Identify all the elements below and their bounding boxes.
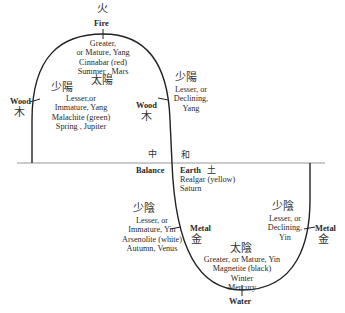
text-line: Spring , Jupiter bbox=[40, 122, 122, 131]
text-line: Yang bbox=[168, 104, 214, 113]
metal-left-cjk: 金 bbox=[191, 234, 202, 246]
text-line: Saturn bbox=[180, 184, 235, 193]
text-line: Winter bbox=[197, 274, 287, 283]
fire-label: Fire bbox=[94, 19, 109, 28]
greater-yang-description: Greater, or Mature, Yang Cinnabar (red) … bbox=[63, 39, 143, 76]
greater-yin-description: Greater, or Mature, Yin Magnetite (black… bbox=[197, 255, 287, 292]
lesser-yin-left-cjk: 少陰 bbox=[133, 203, 155, 215]
balance-cjk: 中 bbox=[148, 148, 157, 160]
text-line: Immature, Yang bbox=[40, 103, 122, 112]
text-line: Immature, Yin bbox=[118, 225, 186, 234]
earth-label: Earth bbox=[180, 166, 201, 175]
text-line: Malachite (green) bbox=[40, 113, 122, 122]
lesser-yin-right-cjk: 少陰 bbox=[272, 201, 294, 213]
wood-right-label: Wood bbox=[136, 101, 157, 110]
metal-right-label: Metal bbox=[315, 224, 336, 233]
text-line: Magnetite (black) bbox=[197, 264, 287, 273]
greater-yin-cjk: 太陰 bbox=[230, 243, 252, 255]
text-line: Declining, bbox=[168, 94, 214, 103]
water-label: Water bbox=[229, 297, 251, 306]
text-line: Lesser, or bbox=[118, 216, 186, 225]
text-line: Arsenolite (white) bbox=[118, 235, 186, 244]
lesser-yang-left-cjk: 少陽 bbox=[51, 82, 73, 94]
text-line: Lesser,or bbox=[40, 94, 122, 103]
wood-left-tick bbox=[30, 99, 40, 102]
lesser-yang-left-description: Lesser,or Immature, Yang Malachite (gree… bbox=[40, 94, 122, 131]
text-line: Lesser, or bbox=[168, 85, 214, 94]
lesser-yang-right-description: Lesser, or Declining, Yang bbox=[168, 85, 214, 113]
greater-yang-cjk: 太陽 bbox=[91, 75, 113, 87]
cycle-curves bbox=[0, 0, 345, 313]
wood-right-cjk: 木 bbox=[141, 111, 152, 123]
text-line: Mercury bbox=[197, 283, 287, 292]
earth-description: Realgar (yellow) Saturn bbox=[180, 175, 235, 194]
harmony-cjk: 和 bbox=[181, 149, 190, 161]
text-line: Autumn, Venus bbox=[118, 244, 186, 253]
text-line: Cinnabar (red) bbox=[63, 58, 143, 67]
balance-label: Balance bbox=[136, 166, 164, 175]
wood-right-tick bbox=[158, 98, 168, 100]
text-line: or Mature, Yang bbox=[63, 48, 143, 57]
text-line: Lesser, or bbox=[263, 214, 307, 223]
text-line: Yin bbox=[263, 233, 307, 242]
text-line: Realgar (yellow) bbox=[180, 175, 235, 184]
wood-left-cjk: 木 bbox=[14, 107, 25, 119]
metal-left-label: Metal bbox=[190, 224, 211, 233]
text-line: Declining, bbox=[263, 223, 307, 232]
lesser-yang-right-cjk: 少陽 bbox=[175, 72, 197, 84]
text-line: Greater, bbox=[63, 39, 143, 48]
fire-cjk: 火 bbox=[97, 3, 108, 15]
wood-left-label: Wood bbox=[10, 97, 31, 106]
text-line: Greater, or Mature, Yin bbox=[197, 255, 287, 264]
metal-right-cjk: 金 bbox=[318, 234, 329, 246]
lesser-yin-right-description: Lesser, or Declining, Yin bbox=[263, 214, 307, 242]
lesser-yin-left-description: Lesser, or Immature, Yin Arsenolite (whi… bbox=[118, 216, 186, 253]
